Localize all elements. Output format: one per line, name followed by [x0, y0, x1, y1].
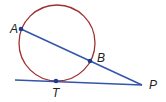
point-A	[19, 27, 24, 32]
point-T	[54, 79, 59, 84]
label-B: B	[97, 51, 105, 65]
label-T: T	[52, 86, 61, 100]
point-B	[88, 59, 93, 64]
label-P: P	[149, 78, 157, 92]
label-A: A	[9, 22, 18, 36]
geometry-diagram: A B T P	[0, 0, 166, 102]
circle	[19, 5, 95, 81]
tangent-line-TP	[15, 80, 142, 85]
